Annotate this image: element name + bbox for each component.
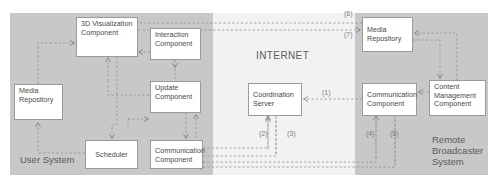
panel-label-remote-broadcaster-system: Remote Broadcaster System: [432, 134, 488, 167]
node-media-repository-remote[interactable]: Media Repository: [362, 17, 413, 52]
node-label-line-2: Component: [155, 93, 200, 102]
panel-label-remote-line-2: Broadcaster: [432, 145, 488, 156]
connection-label-7: (7): [344, 31, 353, 39]
architecture-diagram: User System INTERNET Remote Broadcaster …: [0, 0, 495, 193]
node-content-management-component[interactable]: Content Management Component: [429, 80, 486, 116]
connection-label-4: (4): [366, 130, 375, 138]
node-update-component[interactable]: Update Component: [150, 81, 201, 113]
node-label-line-2: Component: [155, 40, 200, 49]
node-label-line-3: Component: [434, 100, 485, 109]
node-scheduler[interactable]: Scheduler: [85, 140, 138, 169]
node-label-line-2: Component: [155, 156, 202, 165]
node-label-line-1: Scheduler: [86, 151, 137, 160]
connection-label-6: (6): [344, 10, 353, 18]
panel-label-remote-line-1: Remote: [432, 134, 488, 145]
panel-label-user-system: User System: [20, 154, 74, 165]
node-communication-component-user[interactable]: Communication Component: [150, 140, 203, 169]
connection-label-3: (3): [287, 130, 296, 138]
node-interaction-component[interactable]: Interaction Component: [150, 28, 201, 60]
node-label-line-2: Component: [367, 100, 416, 109]
panel-label-internet: INTERNET: [256, 50, 309, 61]
connection-label-2: (2): [259, 130, 268, 138]
node-label-line-2: Component: [81, 29, 137, 38]
node-label-line-2: Repository: [19, 96, 62, 105]
connection-label-5: (5): [390, 130, 399, 138]
node-media-repository-user[interactable]: Media Repository: [14, 84, 63, 120]
node-communication-component-remote[interactable]: Communication Component: [362, 83, 417, 116]
panel-label-remote-line-3: System: [432, 156, 488, 167]
node-label-line-2: Repository: [367, 35, 412, 44]
node-label-line-2: Server: [253, 100, 301, 109]
connection-label-1: (1): [322, 89, 331, 97]
node-3d-visualization-component[interactable]: 3D Visualization Component: [76, 17, 138, 57]
node-coordination-server[interactable]: Coordination Server: [248, 83, 302, 116]
